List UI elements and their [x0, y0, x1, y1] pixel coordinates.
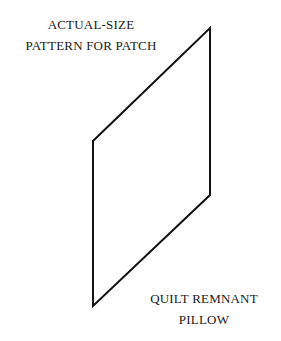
pattern-caption-line-1: QUILT REMNANT	[144, 288, 264, 309]
pattern-caption: QUILT REMNANT PILLOW	[144, 288, 264, 330]
parallelogram-patch-outline	[93, 28, 210, 306]
pattern-caption-line-2: PILLOW	[144, 309, 264, 330]
